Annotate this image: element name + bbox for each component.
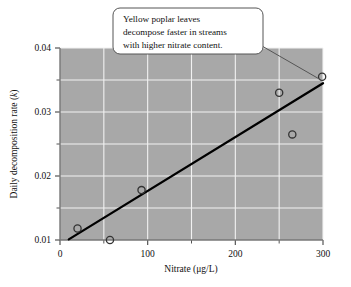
- callout-line-1: Yellow poplar leaves: [123, 14, 201, 24]
- y-axis-title-tail: ): [9, 90, 20, 93]
- x-tick-label: 0: [58, 249, 63, 259]
- x-tick-label: 300: [316, 249, 331, 259]
- y-axis-title: Daily decomposition rate (k): [9, 90, 20, 199]
- scatter-plot: 01002003000.010.020.030.04 Nitrate (μg/L…: [0, 0, 351, 287]
- y-axis-title-text: Daily decomposition rate (: [9, 97, 20, 199]
- y-tick-label: 0.04: [34, 43, 51, 53]
- y-tick-label: 0.02: [34, 171, 51, 181]
- callout-line-2: decompose faster in streams: [123, 27, 227, 37]
- x-axis-title-text: Nitrate (: [164, 264, 196, 275]
- figure-container: 01002003000.010.020.030.04 Nitrate (μg/L…: [0, 0, 351, 287]
- x-tick-label: 100: [141, 249, 156, 259]
- y-tick-label: 0.03: [34, 107, 51, 117]
- x-tick-label: 200: [228, 249, 243, 259]
- x-axis-title: Nitrate (μg/L): [164, 264, 217, 275]
- callout-line-3: with higher nitrate content.: [123, 40, 223, 50]
- x-axis-title-tail: g/L): [201, 264, 217, 275]
- y-tick-label: 0.01: [34, 235, 51, 245]
